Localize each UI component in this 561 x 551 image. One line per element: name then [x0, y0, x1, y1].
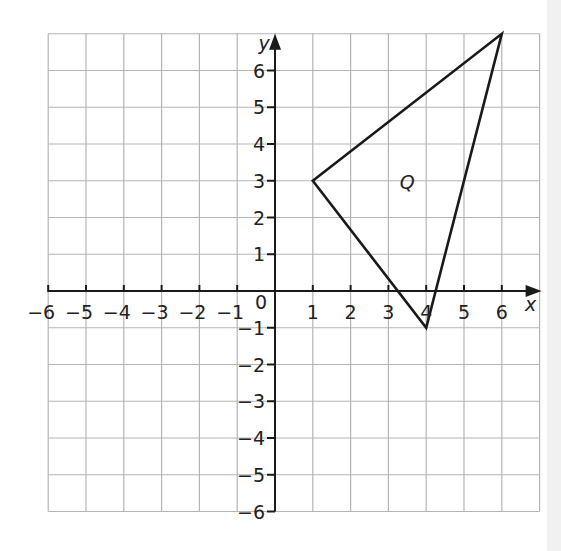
x-tick-label: 6 — [496, 301, 508, 323]
y-axis-arrow-icon — [269, 34, 281, 50]
y-tick-label: 1 — [253, 243, 265, 265]
x-tick-label: −6 — [27, 301, 55, 323]
x-tick-label: 2 — [345, 301, 357, 323]
y-tick-label: −1 — [237, 317, 265, 339]
x-tick-label: −4 — [103, 301, 131, 323]
y-tick-label: 5 — [253, 96, 265, 118]
y-tick-label: 3 — [253, 170, 265, 192]
y-tick-label: 4 — [253, 133, 265, 155]
y-tick-label: −4 — [237, 427, 265, 449]
y-tick-label: −3 — [237, 390, 265, 412]
y-tick-label: −5 — [237, 464, 265, 486]
grid-lines — [48, 34, 539, 512]
x-tick-label: 5 — [458, 301, 470, 323]
page-edge-shadow — [547, 0, 561, 551]
x-axis-label: x — [524, 293, 537, 315]
axes — [48, 34, 541, 512]
axis-labels: −6−5−4−3−2−1123456−6−5−4−3−2−11234560xyQ — [27, 32, 537, 523]
x-tick-label: 4 — [420, 301, 432, 323]
x-tick-label: −5 — [65, 301, 93, 323]
y-tick-label: 6 — [253, 60, 265, 82]
y-tick-label: 2 — [253, 207, 265, 229]
coordinate-grid-figure: −6−5−4−3−2−1123456−6−5−4−3−2−11234560xyQ — [0, 0, 561, 551]
y-axis-label: y — [257, 32, 270, 54]
grid-plot: −6−5−4−3−2−1123456−6−5−4−3−2−11234560xyQ — [0, 0, 561, 551]
x-tick-label: −2 — [178, 301, 206, 323]
origin-label: 0 — [255, 291, 267, 313]
x-tick-label: −3 — [141, 301, 169, 323]
x-tick-label: 1 — [307, 301, 319, 323]
y-tick-label: −6 — [237, 501, 265, 523]
y-tick-label: −2 — [237, 354, 265, 376]
x-tick-label: 3 — [382, 301, 394, 323]
shape-label-q: Q — [400, 171, 415, 193]
